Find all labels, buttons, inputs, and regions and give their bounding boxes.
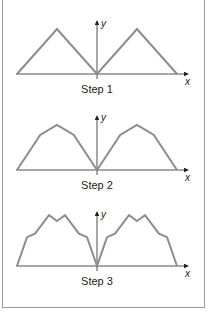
y-axis-label: y xyxy=(100,18,107,29)
panel-step-3: y x Step 3 xyxy=(16,209,191,287)
panel-step-1: y x Step 1 xyxy=(16,18,191,95)
step-caption: Step 3 xyxy=(81,275,113,287)
x-axis-label: x xyxy=(184,172,191,183)
step-caption: Step 2 xyxy=(81,179,113,191)
panel-step-2: y x Step 2 xyxy=(16,112,191,191)
step-caption: Step 1 xyxy=(81,83,113,95)
x-axis-label: x xyxy=(184,268,191,279)
y-axis-label: y xyxy=(100,112,107,123)
y-axis-label: y xyxy=(100,209,107,220)
koch-steps-diagram: y x Step 1 y x Step 2 y x Step 3 xyxy=(0,0,209,318)
x-axis-label: x xyxy=(184,76,191,87)
